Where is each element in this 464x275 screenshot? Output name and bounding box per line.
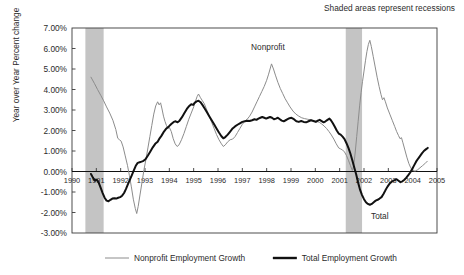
chart-annotations: NonprofitTotal [251,42,389,221]
y-tick-label: 3.00% [43,105,67,115]
y-tick-label: 5.00% [43,64,67,74]
y-tick-label: -3.00% [41,228,68,238]
recession-band [85,28,103,233]
series-line [91,40,427,213]
x-tick-label: 1992 [112,176,128,185]
data-series [91,40,428,213]
x-tick-label: 2001 [331,176,347,185]
plot-frame [72,28,437,233]
y-tick-label: 1.00% [43,146,67,156]
legend-label: Total Employment Growth [302,253,397,263]
x-tick-label: 2000 [307,176,323,185]
series-line [91,101,428,205]
x-tick-label: 1998 [258,176,274,185]
x-axis-ticks: 1990199119921993199419951996199719981999… [64,168,445,185]
chart-legend: Nonprofit Employment GrowthTotal Employm… [105,253,397,263]
y-tick-label: 2.00% [43,126,67,136]
x-tick-label: 1999 [283,176,299,185]
recession-band [346,28,362,233]
y-tick-label: -1.00% [41,187,68,197]
x-tick-label: 1997 [234,176,250,185]
y-axis-ticks: 7.00%6.00%5.00%4.00%3.00%2.00%1.00%0.00%… [41,23,76,238]
employment-growth-chart: 7.00%6.00%5.00%4.00%3.00%2.00%1.00%0.00%… [0,0,464,275]
y-tick-label: -2.00% [41,208,68,218]
y-tick-label: 6.00% [43,44,67,54]
series-annotation-label: Total [371,211,389,221]
series-annotation-label: Nonprofit [251,42,285,52]
x-tick-label: 1994 [161,176,177,185]
legend-label: Nonprofit Employment Growth [134,253,246,263]
x-tick-label: 1990 [64,176,80,185]
x-tick-label: 2005 [429,176,445,185]
x-tick-label: 1995 [185,176,201,185]
x-tick-label: 1993 [137,176,153,185]
x-tick-label: 1996 [210,176,226,185]
shaded-recession-bands [85,28,362,233]
y-tick-label: 7.00% [43,23,67,33]
y-tick-label: 4.00% [43,85,67,95]
